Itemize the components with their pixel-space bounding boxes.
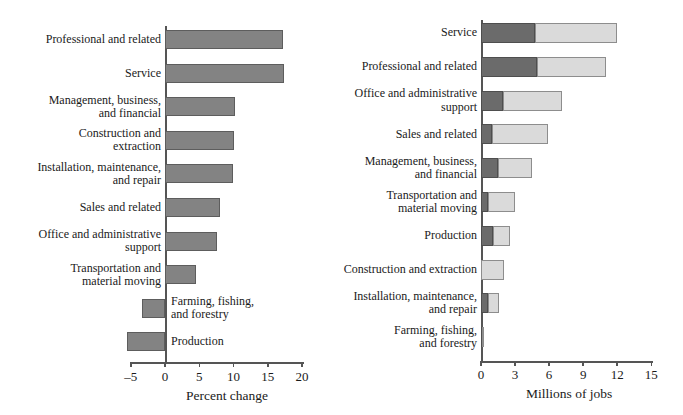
left-category-label: Construction and extraction <box>0 127 161 153</box>
replacement-segment <box>493 226 511 246</box>
right-tick <box>514 361 516 366</box>
right-category-label: Service <box>341 26 477 39</box>
right-category-label: Sales and related <box>341 128 477 141</box>
right-category-label: Management, business, and financial <box>341 155 477 181</box>
left-tick-label: 0 <box>147 369 183 385</box>
right-category-label: Office and administrative support <box>341 87 477 113</box>
left-bar <box>165 131 234 150</box>
right-tick <box>548 361 550 366</box>
left-tick <box>164 362 166 367</box>
right-tick <box>651 361 653 366</box>
right-chart-axis-title: Millions of jobs <box>526 386 612 402</box>
left-category-label: Installation, maintenance, and repair <box>0 161 161 187</box>
left-bar <box>165 97 235 116</box>
left-tick-label: 20 <box>284 369 320 385</box>
growth-segment <box>481 226 493 246</box>
right-category-label: Production <box>341 229 477 242</box>
growth-segment <box>481 57 537 77</box>
millions-of-jobs-chart: 03691215 ServiceProfessional and related… <box>341 0 683 415</box>
right-category-label: Professional and related <box>341 60 477 73</box>
left-bar <box>165 164 233 183</box>
left-tick <box>301 362 303 367</box>
right-category-label: Construction and extraction <box>341 263 477 276</box>
left-chart-x-axis <box>131 362 304 364</box>
right-category-label: Installation, maintenance, and repair <box>341 290 477 316</box>
right-tick-label: 15 <box>633 367 669 383</box>
right-tick-label: 0 <box>463 367 499 383</box>
replacement-segment <box>488 293 499 313</box>
left-category-label: Office and administrative support <box>0 228 161 254</box>
replacement-segment <box>498 158 532 178</box>
left-bar <box>127 332 165 351</box>
right-tick <box>616 361 618 366</box>
left-bar <box>165 30 283 49</box>
growth-segment <box>481 158 498 178</box>
left-category-label: Service <box>0 67 161 80</box>
left-category-label: Professional and related <box>0 33 161 46</box>
left-category-label: Sales and related <box>0 201 161 214</box>
growth-segment <box>481 124 492 144</box>
left-bar <box>165 265 196 284</box>
replacement-segment <box>537 57 606 77</box>
left-category-label: Farming, fishing, and forestry <box>171 295 336 321</box>
left-tick-label: 15 <box>250 369 286 385</box>
left-chart-axis-title: Percent change <box>186 388 268 404</box>
replacement-segment <box>492 124 548 144</box>
left-tick <box>233 362 235 367</box>
left-tick-label: –5 <box>113 369 149 385</box>
right-tick-label: 9 <box>565 367 601 383</box>
growth-segment <box>481 23 535 43</box>
replacement-segment <box>503 91 562 111</box>
replacement-segment <box>482 327 484 347</box>
left-bar <box>142 299 165 318</box>
replacement-segment <box>488 192 515 212</box>
left-tick-label: 5 <box>181 369 217 385</box>
right-category-label: Farming, fishing, and forestry <box>341 324 477 350</box>
right-category-label: Transportation and material moving <box>341 189 477 215</box>
left-tick <box>130 362 132 367</box>
left-category-label: Production <box>171 335 336 348</box>
left-tick <box>199 362 201 367</box>
growth-segment <box>481 293 488 313</box>
left-category-label: Transportation and material moving <box>0 262 161 288</box>
left-bar <box>165 232 217 251</box>
right-chart-x-axis <box>481 361 653 363</box>
percent-change-chart: –505101520 Professional and relatedServi… <box>0 0 341 415</box>
growth-segment <box>481 192 488 212</box>
right-tick-label: 3 <box>497 367 533 383</box>
right-tick-label: 6 <box>531 367 567 383</box>
replacement-segment <box>535 23 617 43</box>
left-bar <box>165 198 220 217</box>
right-tick <box>582 361 584 366</box>
left-bar <box>165 64 284 83</box>
left-tick <box>267 362 269 367</box>
left-tick-label: 10 <box>216 369 252 385</box>
replacement-segment <box>481 260 504 280</box>
right-tick-label: 12 <box>599 367 635 383</box>
right-tick <box>480 361 482 366</box>
growth-segment <box>481 91 503 111</box>
left-category-label: Management, business, and financial <box>0 94 161 120</box>
